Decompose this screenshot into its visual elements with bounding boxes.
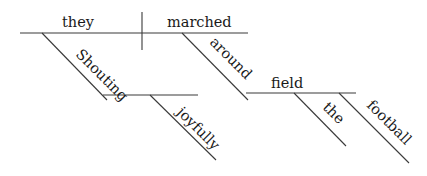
object-word: field xyxy=(271,75,303,91)
article-word: the xyxy=(320,99,348,127)
verb-word: marched xyxy=(167,14,232,30)
subject-word: they xyxy=(62,14,95,30)
noun-modifier-word: football xyxy=(364,97,415,148)
preposition-word: around xyxy=(207,34,255,82)
adverb-word: joyfully xyxy=(172,102,223,153)
sentence-diagram: they marched Shouting joyfully around fi… xyxy=(0,0,427,176)
